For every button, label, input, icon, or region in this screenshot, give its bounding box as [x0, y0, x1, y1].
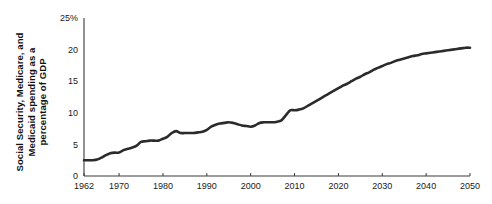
- line-chart: 0510152025% 1962197019801990200020102020…: [0, 0, 492, 204]
- x-axis-tick-labels: 1962197019801990200020102020203020402050: [74, 181, 480, 191]
- y-axis-tick-label: 25%: [60, 13, 78, 23]
- x-axis-tick-label: 1980: [153, 181, 173, 191]
- x-axis-tick-label: 1990: [197, 181, 217, 191]
- x-axis-tick-label: 1962: [74, 181, 94, 191]
- x-axis-tick-label: 2020: [328, 181, 348, 191]
- y-axis-tick-label: 10: [68, 108, 78, 118]
- x-axis-tick-label: 1970: [109, 181, 129, 191]
- x-axis-tick-label: 2000: [241, 181, 261, 191]
- spending-trend-line: [84, 48, 470, 161]
- x-axis-tick-label: 2040: [416, 181, 436, 191]
- y-axis-tick-label: 5: [73, 140, 78, 150]
- y-axis-tick-labels: 0510152025%: [60, 13, 78, 181]
- x-axis-tick-label: 2030: [372, 181, 392, 191]
- chart-page: Social Security, Medicare, and Medicaid …: [0, 0, 492, 204]
- y-axis-tick-label: 0: [73, 171, 78, 181]
- x-axis-tick-label: 2010: [285, 181, 305, 191]
- y-axis-tick-label: 20: [68, 45, 78, 55]
- x-axis-tick-label: 2050: [460, 181, 480, 191]
- y-axis-tick-label: 15: [68, 76, 78, 86]
